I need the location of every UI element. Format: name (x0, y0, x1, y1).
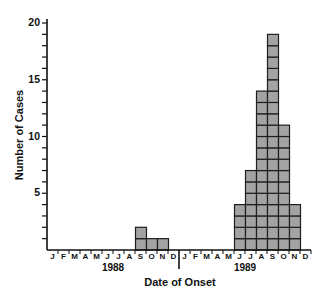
case-box (268, 182, 279, 193)
case-box (257, 239, 268, 250)
case-box (279, 239, 290, 250)
case-box (279, 125, 290, 136)
year-label: 1988 (102, 262, 124, 273)
month-tick-label: M (69, 252, 80, 261)
case-box (290, 216, 301, 227)
case-box (279, 137, 290, 148)
case-box (235, 205, 246, 216)
month-tick-label: J (234, 252, 245, 261)
case-box (279, 216, 290, 227)
month-tick-label: F (58, 252, 69, 261)
month-tick-label: J (102, 252, 113, 261)
case-box (279, 159, 290, 170)
case-box (257, 114, 268, 125)
case-box (268, 239, 279, 250)
case-box (246, 193, 257, 204)
case-box (290, 227, 301, 238)
month-tick-label: J (47, 252, 58, 261)
case-box (257, 182, 268, 193)
case-box (268, 57, 279, 68)
case-box (268, 137, 279, 148)
month-tick-label: S (267, 252, 278, 261)
case-box (235, 227, 246, 238)
case-box (268, 148, 279, 159)
case-box (235, 239, 246, 250)
case-box (136, 227, 147, 238)
month-tick-label: O (278, 252, 289, 261)
y-tick-label: 15 (20, 73, 40, 85)
y-tick-label: 10 (20, 130, 40, 142)
case-box (279, 171, 290, 182)
month-tick-label: A (256, 252, 267, 261)
case-box (158, 239, 169, 250)
case-box (268, 125, 279, 136)
month-tick-label: M (91, 252, 102, 261)
case-box (246, 239, 257, 250)
case-box (147, 239, 158, 250)
x-axis-label: Date of Onset (144, 276, 216, 288)
case-box (268, 102, 279, 113)
y-tick-label: 20 (20, 16, 40, 28)
y-tick-label: 5 (20, 186, 40, 198)
month-tick-label: A (80, 252, 91, 261)
case-box (268, 193, 279, 204)
case-box (279, 148, 290, 159)
case-box (246, 205, 257, 216)
case-box (257, 91, 268, 102)
month-tick-label: D (168, 252, 179, 261)
case-box (279, 193, 290, 204)
month-tick-label: O (146, 252, 157, 261)
case-box (136, 239, 147, 250)
month-tick-label: D (300, 252, 311, 261)
case-box (257, 227, 268, 238)
case-box (290, 205, 301, 216)
case-box (246, 171, 257, 182)
case-box (268, 159, 279, 170)
case-box (279, 205, 290, 216)
case-box (268, 205, 279, 216)
month-tick-label: J (179, 252, 190, 261)
case-box (290, 239, 301, 250)
case-box (257, 216, 268, 227)
month-tick-label: F (190, 252, 201, 261)
case-box (257, 137, 268, 148)
month-tick-label: N (157, 252, 168, 261)
case-box (257, 193, 268, 204)
case-box (257, 159, 268, 170)
month-tick-label: A (124, 252, 135, 261)
case-box (257, 148, 268, 159)
month-tick-label: M (201, 252, 212, 261)
case-box (257, 102, 268, 113)
month-tick-label: J (113, 252, 124, 261)
case-box (268, 80, 279, 91)
month-tick-label: M (223, 252, 234, 261)
month-tick-label: S (135, 252, 146, 261)
case-box (279, 182, 290, 193)
year-label: 1989 (234, 262, 256, 273)
month-tick-label: J (245, 252, 256, 261)
case-box (268, 91, 279, 102)
case-box (279, 227, 290, 238)
case-box (257, 171, 268, 182)
case-box (268, 68, 279, 79)
case-box (268, 46, 279, 57)
case-box (268, 227, 279, 238)
case-box (268, 171, 279, 182)
case-box (268, 34, 279, 45)
case-box (268, 216, 279, 227)
case-box (257, 125, 268, 136)
epidemic-curve-chart: Number of Cases Date of Onset 5101520JFM… (0, 0, 324, 296)
case-box (268, 114, 279, 125)
month-tick-label: A (212, 252, 223, 261)
month-tick-label: N (289, 252, 300, 261)
case-box (246, 227, 257, 238)
case-box (235, 216, 246, 227)
case-box (257, 205, 268, 216)
case-box (246, 216, 257, 227)
case-box (246, 182, 257, 193)
